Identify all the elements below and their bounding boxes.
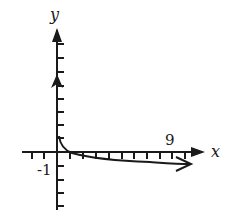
x-axis-arrow-icon [191, 147, 205, 157]
y-axis-ticks [57, 44, 64, 206]
y-axis-arrow-icon [52, 28, 62, 42]
tick-label-neg1: -1 [37, 161, 52, 179]
x-axis-ticks [32, 152, 185, 159]
x-axis-label: x [211, 142, 220, 161]
graph: y x 9 -1 [0, 0, 236, 217]
tick-label-9: 9 [165, 131, 175, 149]
y-axis-label: y [49, 5, 60, 24]
